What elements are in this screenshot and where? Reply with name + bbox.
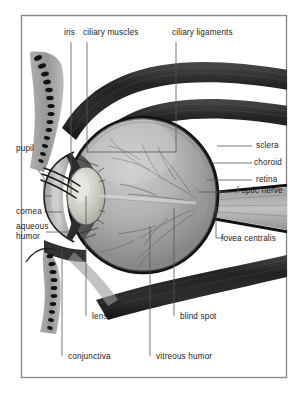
lens-highlight (72, 173, 90, 203)
eye-anatomy-figure: iris ciliary muscles ciliary ligaments p… (0, 0, 302, 397)
label-ciliary-muscles: ciliary muscles (83, 28, 138, 37)
label-cornea: cornea (16, 207, 42, 216)
label-retina: retina (256, 175, 277, 184)
label-lens: lens (92, 312, 108, 321)
label-ciliary-ligaments: ciliary ligaments (172, 28, 233, 37)
eye-diagram-canvas (0, 0, 302, 397)
label-vitreous-humor: vitreous humor (156, 352, 212, 361)
label-optic-nerve: optic nerve (241, 186, 283, 195)
label-fovea-centralis: fovea centralis (221, 234, 276, 243)
label-choroid: choroid (254, 158, 282, 167)
label-sclera: sclera (256, 141, 279, 150)
label-iris: iris (64, 28, 75, 37)
label-blind-spot: blind spot (180, 312, 217, 321)
label-conjunctiva: conjunctiva (68, 352, 111, 361)
label-pupil: pupil (16, 144, 34, 153)
label-aqueous-humor-line1: aqueous (16, 222, 48, 231)
label-aqueous-humor-line2: humor (16, 232, 40, 241)
